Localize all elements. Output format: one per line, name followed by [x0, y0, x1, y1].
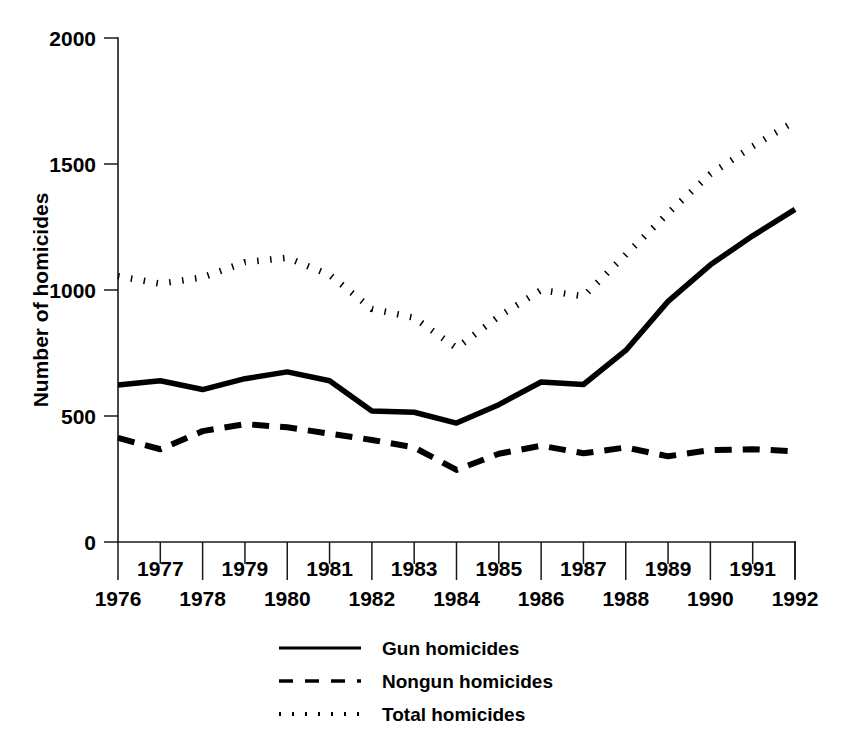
x-axis-tick-label: 1976	[95, 587, 142, 610]
y-axis-tick-label: 1500	[49, 153, 96, 176]
y-axis-tick-label: 2000	[49, 27, 96, 50]
x-axis-tick-label: 1989	[645, 557, 692, 580]
x-axis-tick-label: 1983	[391, 557, 438, 580]
y-axis-tick-label: 500	[61, 405, 96, 428]
x-axis-tick-label: 1990	[687, 587, 734, 610]
legend-label-total-homicides: Total homicides	[382, 704, 525, 725]
x-axis-tick-label: 1991	[729, 557, 776, 580]
x-axis-ticks	[118, 542, 795, 580]
x-axis-tick-label: 1992	[772, 587, 819, 610]
x-axis-tick-label: 1980	[264, 587, 311, 610]
y-axis-ticks	[104, 38, 118, 542]
series-line-total-homicides	[118, 121, 795, 348]
series-line-gun-homicides	[118, 209, 795, 423]
x-axis-tick-label: 1982	[349, 587, 396, 610]
chart-canvas: 0500100015002000 19771979198119831985198…	[0, 0, 841, 745]
x-axis-tick-labels-lower: 197619781980198219841986198819901992	[95, 587, 819, 610]
chart-legend: Gun homicides Nongun homicides Total hom…	[279, 638, 553, 725]
x-axis-tick-label: 1987	[560, 557, 607, 580]
legend-entry-nongun-homicides: Nongun homicides	[279, 671, 553, 692]
x-axis-tick-label: 1985	[475, 557, 522, 580]
legend-label-gun-homicides: Gun homicides	[382, 638, 519, 659]
chart-series-group	[118, 121, 795, 470]
homicides-line-chart-figure: 0500100015002000 19771979198119831985198…	[0, 0, 841, 745]
x-axis-tick-label: 1988	[602, 587, 649, 610]
chart-axes	[118, 38, 795, 578]
y-axis-tick-label: 0	[84, 531, 96, 554]
x-axis-tick-label: 1978	[179, 587, 226, 610]
legend-entry-gun-homicides: Gun homicides	[279, 638, 519, 659]
x-axis-tick-label: 1979	[222, 557, 269, 580]
legend-label-nongun-homicides: Nongun homicides	[382, 671, 553, 692]
y-axis-label: Number of homicides	[29, 193, 52, 408]
x-axis-tick-label: 1986	[518, 587, 565, 610]
x-axis-tick-label: 1977	[137, 557, 184, 580]
series-line-nongun-homicides	[118, 424, 795, 470]
legend-entry-total-homicides: Total homicides	[279, 704, 525, 725]
x-axis-tick-label: 1981	[306, 557, 353, 580]
y-axis-tick-label: 1000	[49, 279, 96, 302]
x-axis-tick-label: 1984	[433, 587, 480, 610]
y-axis-tick-labels: 0500100015002000	[49, 27, 96, 554]
